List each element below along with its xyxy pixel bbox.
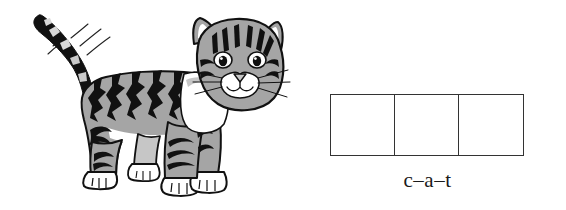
word-label: c–a–t <box>330 168 525 192</box>
cat-eye-left <box>214 52 232 68</box>
phoneme-cell-3[interactable] <box>459 95 523 155</box>
phoneme-cell-1[interactable] <box>331 95 395 155</box>
phoneme-cell-2[interactable] <box>395 95 459 155</box>
cat-front-leg-far <box>134 134 160 168</box>
worksheet-screenshot: c–a–t <box>0 0 566 210</box>
cat-hind-leg-left <box>90 140 122 176</box>
cat-eye-right <box>248 52 266 68</box>
cat-illustration <box>8 2 300 202</box>
phoneme-boxes <box>330 94 524 156</box>
